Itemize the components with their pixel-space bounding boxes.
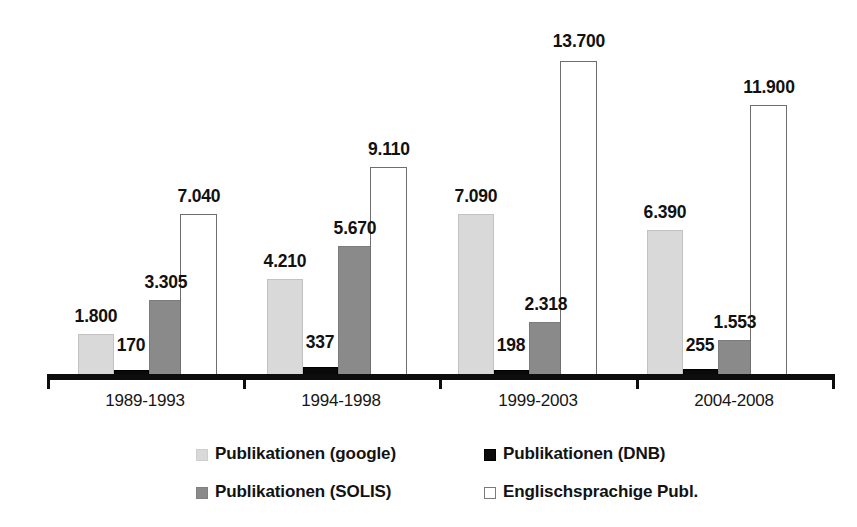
bar-value-dnb-1999-2003: 198 — [480, 337, 542, 355]
bar-value-english-1994-1998: 9.110 — [351, 141, 427, 159]
bar-google-1994-1998 — [267, 279, 303, 375]
bar-english-1999-2003 — [560, 61, 597, 375]
legend-swatch-solis-icon — [196, 487, 208, 499]
legend-label-english: Englischsprachige Publ. — [503, 482, 698, 502]
chart-page: 1.800 170 3.305 7.040 4.210 337 5.670 9.… — [0, 0, 857, 527]
x-axis-tick-3 — [636, 374, 639, 389]
x-axis-cap-left — [47, 374, 50, 389]
bar-english-2004-2008 — [750, 105, 787, 375]
bar-english-1989-1993 — [180, 214, 217, 375]
bar-value-english-2004-2008: 11.900 — [728, 79, 810, 97]
legend-swatch-google-icon — [196, 449, 208, 461]
x-axis-tick-2 — [439, 374, 442, 389]
bar-value-solis-1999-2003: 2.318 — [508, 296, 584, 314]
bar-value-google-1989-1993: 1.800 — [58, 308, 134, 326]
x-axis-tick-1 — [243, 374, 246, 389]
legend-swatch-dnb-icon — [484, 449, 496, 461]
bar-value-solis-2004-2008: 1.553 — [697, 314, 773, 332]
legend-label-google: Publikationen (google) — [215, 444, 396, 464]
bar-value-english-1989-1993: 7.040 — [161, 188, 237, 206]
legend-item-publikationen-dnb[interactable]: Publikationen (DNB) — [484, 444, 665, 464]
bar-solis-1994-1998 — [338, 246, 373, 375]
bar-value-dnb-2004-2008: 255 — [669, 337, 731, 355]
legend-item-englischsprachige-publ[interactable]: Englischsprachige Publ. — [484, 482, 698, 502]
x-axis-cap-right — [832, 374, 835, 389]
legend-label-solis: Publikationen (SOLIS) — [215, 482, 391, 502]
bar-value-google-1999-2003: 7.090 — [438, 188, 514, 206]
bar-value-solis-1994-1998: 5.670 — [317, 220, 393, 238]
bar-value-dnb-1994-1998: 337 — [289, 334, 351, 352]
x-axis-label-2004-2008: 2004-2008 — [674, 391, 794, 411]
bar-value-dnb-1989-1993: 170 — [100, 337, 162, 355]
bar-value-google-1994-1998: 4.210 — [247, 253, 323, 271]
bar-value-google-2004-2008: 6.390 — [627, 204, 703, 222]
x-axis-label-1999-2003: 1999-2003 — [478, 391, 598, 411]
bar-english-1994-1998 — [370, 167, 407, 375]
legend-item-publikationen-google[interactable]: Publikationen (google) — [196, 444, 396, 464]
legend-swatch-english-icon — [484, 487, 496, 499]
chart-legend: Publikationen (google) Publikationen (DN… — [0, 440, 857, 520]
bar-value-solis-1989-1993: 3.305 — [128, 274, 204, 292]
x-axis-label-1994-1998: 1994-1998 — [281, 391, 401, 411]
bar-value-english-1999-2003: 13.700 — [538, 33, 620, 51]
legend-item-publikationen-solis[interactable]: Publikationen (SOLIS) — [196, 482, 391, 502]
x-axis-label-1989-1993: 1989-1993 — [85, 391, 205, 411]
plot-area: 1.800 170 3.305 7.040 4.210 337 5.670 9.… — [0, 0, 857, 380]
legend-label-dnb: Publikationen (DNB) — [503, 444, 665, 464]
